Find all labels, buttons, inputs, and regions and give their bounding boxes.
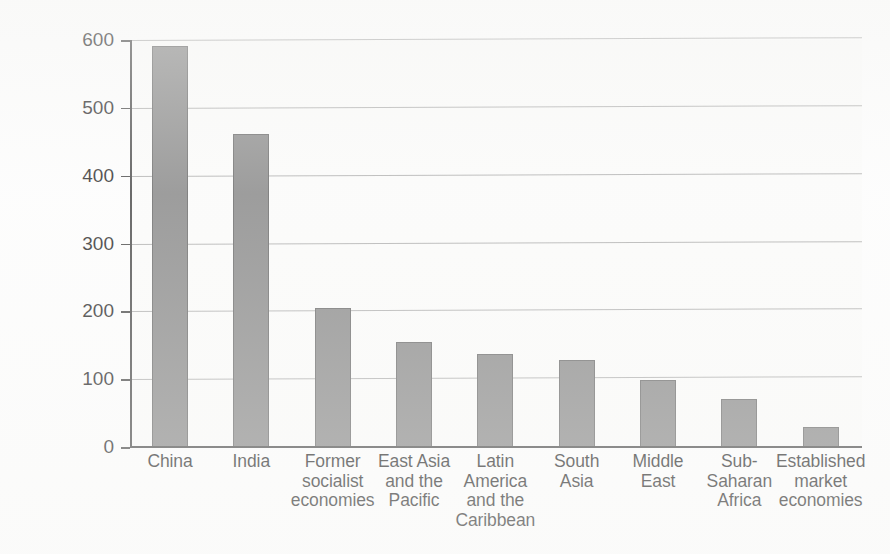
bar-2	[315, 308, 351, 447]
category-label-line: market	[773, 472, 869, 492]
y-tick-label-200: 200	[62, 301, 114, 320]
x-axis-line	[130, 446, 862, 448]
y-tick-label-0: 0	[62, 437, 114, 456]
y-axis-line	[130, 40, 132, 448]
y-tick-mark-100	[121, 379, 130, 381]
bar-4	[477, 354, 513, 447]
y-tick-mark-600	[121, 40, 130, 42]
bar-1	[233, 134, 269, 447]
bar-3	[396, 342, 432, 447]
y-axis-tick-labels: 0100200300400500600	[56, 0, 114, 554]
x-axis-category-labels: ChinaIndiaFormersocialisteconomiesEast A…	[130, 452, 862, 554]
gridline-600	[130, 37, 862, 41]
y-tick-label-600: 600	[62, 30, 114, 49]
bar-8	[803, 427, 839, 447]
gridline-500	[130, 105, 862, 109]
category-label-line: economies	[773, 491, 869, 511]
y-tick-mark-0	[121, 447, 130, 449]
bar-7	[721, 399, 757, 447]
category-label-line: and the	[447, 491, 543, 511]
y-tick-label-500: 500	[62, 98, 114, 117]
category-label-line: Caribbean	[447, 511, 543, 531]
y-tick-mark-500	[121, 108, 130, 110]
plot-area	[130, 40, 862, 447]
bar-0	[152, 46, 188, 447]
y-tick-label-100: 100	[62, 369, 114, 388]
y-tick-mark-400	[121, 176, 130, 178]
y-tick-mark-300	[121, 244, 130, 246]
y-tick-label-400: 400	[62, 166, 114, 185]
category-label-line: Established	[773, 452, 869, 472]
y-tick-mark-200	[121, 311, 130, 313]
bar-6	[640, 380, 676, 447]
bar-5	[559, 360, 595, 447]
category-label-8: Establishedmarketeconomies	[773, 452, 869, 511]
y-tick-label-300: 300	[62, 234, 114, 253]
bar-chart-figure: Annual average deaths (thousands) 010020…	[0, 0, 890, 554]
